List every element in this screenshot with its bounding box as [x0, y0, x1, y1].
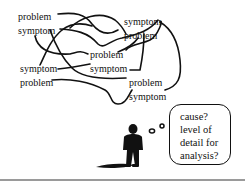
person-silhouette-icon — [96, 124, 143, 168]
label-line: symptom — [124, 17, 161, 27]
problem-symptom-diagram: problem symptom symptom problem problem … — [0, 0, 245, 184]
bubble-line-cause: cause? — [180, 110, 230, 123]
bubble-line-level-of: level of — [180, 123, 230, 136]
label-line: problem — [124, 31, 161, 41]
bubble-line-detail-for: detail for — [180, 136, 230, 149]
tangle-label-pair-left: symptom problem — [20, 64, 57, 88]
label-line: symptom — [20, 64, 57, 74]
label-line: problem — [90, 50, 127, 60]
label-line: symptom — [129, 92, 166, 102]
bottom-divider — [0, 179, 245, 181]
tangle-label-pair-bottom-right: problem symptom — [129, 78, 166, 102]
label-line: problem — [20, 78, 57, 88]
tangle-label-pair-center: problem symptom — [90, 50, 127, 74]
label-line: symptom — [90, 64, 127, 74]
thought-dots — [149, 124, 164, 133]
thought-bubble: cause? level of detail for analysis? — [169, 104, 231, 165]
bubble-line-analysis: analysis? — [180, 149, 230, 162]
tangle-label-pair-top-left: problem symptom — [18, 12, 55, 36]
label-line: problem — [129, 78, 166, 88]
tangle-label-pair-top-right: symptom problem — [124, 17, 161, 41]
label-line: symptom — [18, 26, 55, 36]
label-line: problem — [18, 12, 55, 22]
